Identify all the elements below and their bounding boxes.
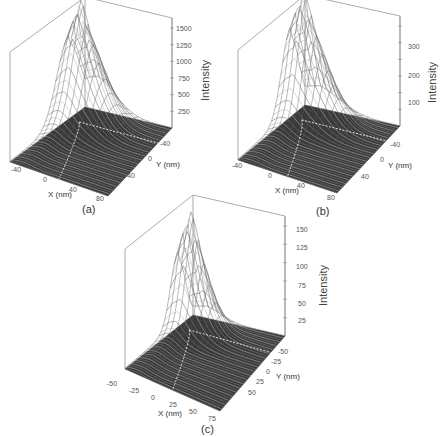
z-tick: 100: [296, 263, 308, 270]
x-tick: 0: [43, 176, 47, 183]
z-axis-title: Intensity: [317, 265, 329, 306]
x-tick: 0: [268, 172, 272, 179]
x-tick: 75: [208, 415, 216, 422]
panel-a: 1500 1250 1000 750 500 250 Intensity -40…: [0, 0, 225, 215]
x-tick: -40: [232, 162, 242, 169]
panel-c: 150 125 100 75 50 25 Intensity -50 -25 0…: [100, 205, 340, 437]
z-tick: 125: [296, 244, 308, 251]
x-tick: 80: [96, 195, 104, 202]
y-tick: 0: [380, 156, 384, 163]
y-tick: -50: [278, 348, 288, 355]
x-tick: -50: [107, 380, 117, 387]
z-tick: 300: [408, 43, 420, 50]
x-axis-label: X (nm): [48, 190, 72, 199]
x-axis-title: X (nm): [158, 409, 182, 418]
z-tick: 1000: [176, 58, 192, 65]
panel-b: 300 200 100 Intensity -40 0 40 80 X (nm)…: [225, 0, 447, 215]
y-tick: 25: [256, 378, 264, 385]
y-tick: 40: [361, 173, 369, 180]
y-axis-title: Y (nm): [156, 160, 180, 169]
z-tick: 50: [298, 300, 306, 307]
x-tick: -40: [11, 166, 21, 173]
x-axis-label: X (nm): [158, 409, 182, 418]
z-tick: 100: [408, 99, 420, 106]
x-tick: 0: [151, 394, 155, 401]
y-tick: 50: [248, 389, 256, 396]
x-tick: -25: [129, 387, 139, 394]
surface-plot-a: [0, 0, 225, 215]
z-tick: 150: [296, 226, 308, 233]
x-axis-title: X (nm): [48, 190, 72, 199]
z-tick: 1500: [176, 25, 192, 32]
y-axis-label: Y (nm): [388, 161, 412, 170]
z-tick: 750: [178, 75, 190, 82]
z-tick: 200: [408, 72, 420, 79]
surface-plot-b: [225, 0, 447, 215]
y-tick: -25: [271, 358, 281, 365]
y-axis-title: Y (nm): [388, 161, 412, 170]
y-tick: -40: [390, 141, 400, 148]
z-tick: 1250: [176, 42, 192, 49]
caption-a: (a): [82, 203, 95, 215]
x-tick: 25: [169, 401, 177, 408]
x-axis-label: X (nm): [275, 186, 299, 195]
z-axis-title: Intensity: [426, 62, 438, 103]
y-axis-title: Y (nm): [276, 372, 300, 381]
z-tick: 75: [298, 282, 306, 289]
y-tick: -40: [160, 140, 170, 147]
z-tick: 500: [178, 91, 190, 98]
y-tick: 0: [148, 155, 152, 162]
x-axis-title: X (nm): [275, 186, 299, 195]
y-axis-label: Y (nm): [156, 160, 180, 169]
z-tick: 25: [298, 317, 306, 324]
y-tick: 40: [127, 172, 135, 179]
x-tick: 80: [327, 194, 335, 201]
caption-c: (c): [201, 423, 214, 435]
y-axis-label: Y (nm): [276, 372, 300, 381]
x-tick: 50: [189, 408, 197, 415]
z-tick: 250: [178, 108, 190, 115]
y-tick: 0: [266, 368, 270, 375]
z-axis-title: Intensity: [199, 60, 211, 101]
